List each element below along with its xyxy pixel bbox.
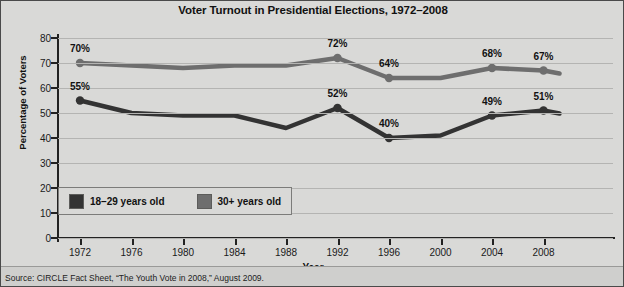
data-point	[333, 104, 341, 112]
y-axis-tick-mark	[51, 237, 58, 239]
x-axis-tick-label: 2008	[522, 247, 566, 258]
y-axis-tick-mark	[51, 162, 58, 164]
x-axis-tick-mark	[132, 239, 134, 245]
x-axis-tick-mark	[235, 239, 237, 245]
data-point-label: 68%	[482, 48, 502, 59]
gridline	[58, 163, 613, 164]
x-axis-tick-mark	[389, 239, 391, 245]
y-axis-tick-label: 50	[29, 108, 51, 119]
data-point	[385, 74, 393, 82]
source-note: Source: CIRCLE Fact Sheet, “The Youth Vo…	[5, 273, 264, 283]
legend-label: 30+ years old	[218, 196, 282, 207]
x-axis-tick-mark	[338, 239, 340, 245]
x-axis-tick-mark	[183, 239, 185, 245]
x-axis-tick-label: 1996	[367, 247, 411, 258]
x-axis-tick-label: 1972	[58, 247, 102, 258]
data-point	[76, 96, 84, 104]
y-axis-tick-label: 40	[29, 133, 51, 144]
y-axis-tick-label: 80	[29, 33, 51, 44]
y-axis-tick-label: 0	[29, 233, 51, 244]
y-axis-tick-label: 10	[29, 208, 51, 219]
gridline	[58, 113, 613, 114]
chart-figure: Voter Turnout in Presidential Elections,…	[0, 0, 624, 287]
y-axis-tick-mark	[51, 37, 58, 39]
x-axis-tick-label: 1988	[264, 247, 308, 258]
x-axis-tick-label: 2004	[470, 247, 514, 258]
y-axis-tick-mark	[51, 187, 58, 189]
x-axis-tick-mark	[80, 239, 82, 245]
x-axis-tick-mark	[286, 239, 288, 245]
y-axis-tick-label: 60	[29, 83, 51, 94]
data-point	[333, 54, 341, 62]
y-axis-tick-mark	[51, 87, 58, 89]
y-axis-tick-mark	[51, 62, 58, 64]
data-point-label: 70%	[70, 43, 90, 54]
y-axis-tick-mark	[51, 112, 58, 114]
legend-item: 18–29 years old	[69, 194, 165, 209]
x-axis-tick-label: 2000	[419, 247, 463, 258]
chart-legend: 18–29 years old30+ years old	[58, 187, 292, 215]
chart-title: Voter Turnout in Presidential Elections,…	[1, 4, 624, 16]
x-axis-tick-label: 1992	[316, 247, 360, 258]
x-axis-tick-mark	[441, 239, 443, 245]
data-point-label: 52%	[327, 88, 347, 99]
x-axis-tick-label: 1980	[161, 247, 205, 258]
data-point-label: 40%	[379, 118, 399, 129]
gridline	[58, 238, 613, 239]
data-point-label: 55%	[70, 81, 90, 92]
gridline	[58, 138, 613, 139]
legend-item: 30+ years old	[197, 194, 282, 209]
data-point-label: 49%	[482, 96, 502, 107]
y-axis-tick-mark	[51, 212, 58, 214]
y-axis-tick-label: 30	[29, 158, 51, 169]
legend-swatch	[69, 194, 84, 209]
x-axis-tick-mark	[544, 239, 546, 245]
gridline	[58, 63, 613, 64]
data-point-label: 64%	[379, 58, 399, 69]
x-axis-tick-mark	[492, 239, 494, 245]
y-axis-tick-label: 70	[29, 58, 51, 69]
x-axis-tick-label: 1976	[110, 247, 154, 258]
y-axis-tick-mark	[51, 137, 58, 139]
y-axis-title: Percentage of Voters	[17, 43, 28, 163]
data-point-label: 72%	[327, 38, 347, 49]
series-line	[80, 58, 560, 78]
legend-label: 18–29 years old	[90, 196, 165, 207]
data-point	[539, 66, 547, 74]
legend-swatch	[197, 194, 212, 209]
y-axis-tick-label: 20	[29, 183, 51, 194]
data-point-label: 51%	[533, 91, 553, 102]
data-point	[488, 64, 496, 72]
data-point-label: 67%	[533, 51, 553, 62]
x-axis-tick-label: 1984	[213, 247, 257, 258]
